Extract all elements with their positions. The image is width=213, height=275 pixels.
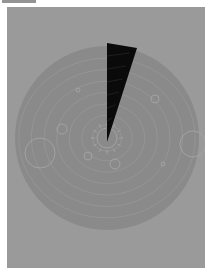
top-edge-remnant <box>2 0 36 3</box>
game-panel[interactable] <box>7 7 205 268</box>
solar-system-canvas[interactable] <box>7 7 205 268</box>
